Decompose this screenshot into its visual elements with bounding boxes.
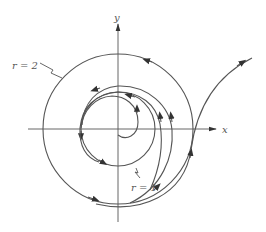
x-axis-label: x bbox=[222, 124, 228, 135]
label-r2: r = 2 bbox=[12, 60, 62, 78]
axes: x y bbox=[28, 12, 228, 222]
y-axis-label: y bbox=[113, 12, 120, 23]
outer-trajectory bbox=[96, 58, 252, 207]
svg-text:r = 2: r = 2 bbox=[12, 60, 38, 71]
phase-portrait-diagram: x y bbox=[0, 0, 266, 232]
label-r1: r = 1 bbox=[131, 168, 157, 193]
svg-text:r = 1: r = 1 bbox=[131, 182, 157, 193]
